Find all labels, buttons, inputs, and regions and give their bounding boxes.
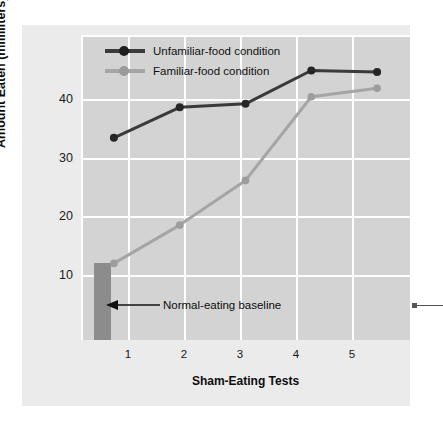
x-axis-label: Sham-Eating Tests bbox=[81, 374, 410, 388]
x-tick-label-2: 2 bbox=[169, 348, 199, 360]
gridline-y-10 bbox=[81, 275, 410, 277]
gridline-y-20 bbox=[81, 216, 410, 218]
legend-label-unfamiliar: Unfamiliar-food condition bbox=[153, 45, 280, 57]
gridline-top bbox=[81, 35, 410, 37]
y-axis-label: Amount Eaten (milliliters) bbox=[0, 0, 8, 148]
y-tick-label-10: 10 bbox=[33, 268, 73, 282]
y-tick-label-30: 30 bbox=[33, 151, 73, 165]
figure-root: Amount Eaten (milliliters) 40 30 20 10 U… bbox=[0, 0, 443, 428]
y-tick-label-40: 40 bbox=[33, 92, 73, 106]
y-tick-label-20: 20 bbox=[33, 209, 73, 223]
gridline-x-5 bbox=[352, 35, 354, 340]
chart-legend: Unfamiliar-food condition Familiar-food … bbox=[105, 42, 280, 82]
gridline-y-30 bbox=[81, 158, 410, 160]
legend-marker-unfamiliar-icon bbox=[105, 45, 145, 57]
right-edge-line bbox=[416, 305, 443, 306]
gridline-x-4 bbox=[296, 35, 298, 340]
gridline-y-40 bbox=[81, 99, 410, 101]
annotation-normal-eating-baseline: Normal-eating baseline bbox=[163, 299, 281, 311]
x-tick-label-3: 3 bbox=[225, 348, 255, 360]
legend-item-unfamiliar: Unfamiliar-food condition bbox=[105, 42, 280, 60]
x-tick-label-4: 4 bbox=[281, 348, 311, 360]
legend-label-familiar: Familiar-food condition bbox=[153, 65, 269, 77]
legend-item-familiar: Familiar-food condition bbox=[105, 62, 280, 80]
normal-eating-baseline-bar bbox=[94, 263, 111, 340]
x-tick-label-5: 5 bbox=[337, 348, 367, 360]
x-tick-label-1: 1 bbox=[113, 348, 143, 360]
legend-marker-familiar-icon bbox=[105, 65, 145, 77]
